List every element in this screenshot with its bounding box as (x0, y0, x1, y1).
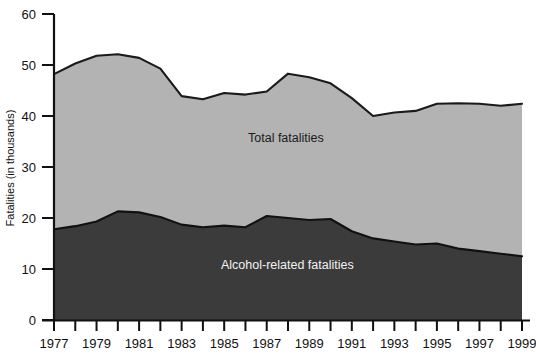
x-axis-tick-label: 1987 (252, 336, 281, 351)
x-axis-tick-label: 1997 (465, 336, 494, 351)
y-axis-tick-label: 0 (29, 313, 36, 328)
x-axis-tick-label: 1989 (295, 336, 324, 351)
area-chart-svg: 0102030405060 19771979198119831985198719… (0, 0, 536, 358)
x-axis-tick-label: 1999 (508, 336, 536, 351)
y-axis-tick-label: 40 (22, 109, 36, 124)
y-axis-tick-label: 30 (22, 160, 36, 175)
x-axis-tick-label: 1977 (40, 336, 69, 351)
x-axis-tick-label: 1991 (337, 336, 366, 351)
x-axis-tick-label: 1981 (125, 336, 154, 351)
series-label-alcohol-related: Alcohol-related fatalities (221, 258, 354, 272)
y-axis-tick-label: 50 (22, 58, 36, 73)
series-label-total-fatalities: Total fatalities (248, 131, 324, 145)
y-axis-tick-label: 10 (22, 262, 36, 277)
chart-container: 0102030405060 19771979198119831985198719… (0, 0, 536, 358)
x-axis-tick-label: 1993 (380, 336, 409, 351)
y-axis-tick-label: 20 (22, 211, 36, 226)
x-axis-tick-label: 1995 (422, 336, 451, 351)
x-axis-tick-label: 1979 (82, 336, 111, 351)
y-axis-title: Fatalities (in thousands) (4, 110, 16, 227)
x-axis-tick-label: 1985 (210, 336, 239, 351)
y-axis-tick-label: 60 (22, 7, 36, 22)
x-axis-tick-label: 1983 (167, 336, 196, 351)
